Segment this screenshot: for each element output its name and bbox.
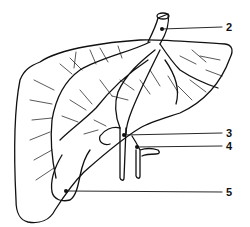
label-4: 4 — [226, 141, 232, 152]
gallbladder — [52, 150, 90, 201]
label-5: 5 — [226, 187, 232, 198]
label-3: 3 — [226, 128, 232, 139]
label-dots — [64, 27, 164, 193]
common-bile-duct — [120, 128, 159, 180]
label-2: 2 — [226, 22, 232, 33]
liver-diagram — [0, 0, 250, 227]
liver-outline — [15, 40, 232, 223]
